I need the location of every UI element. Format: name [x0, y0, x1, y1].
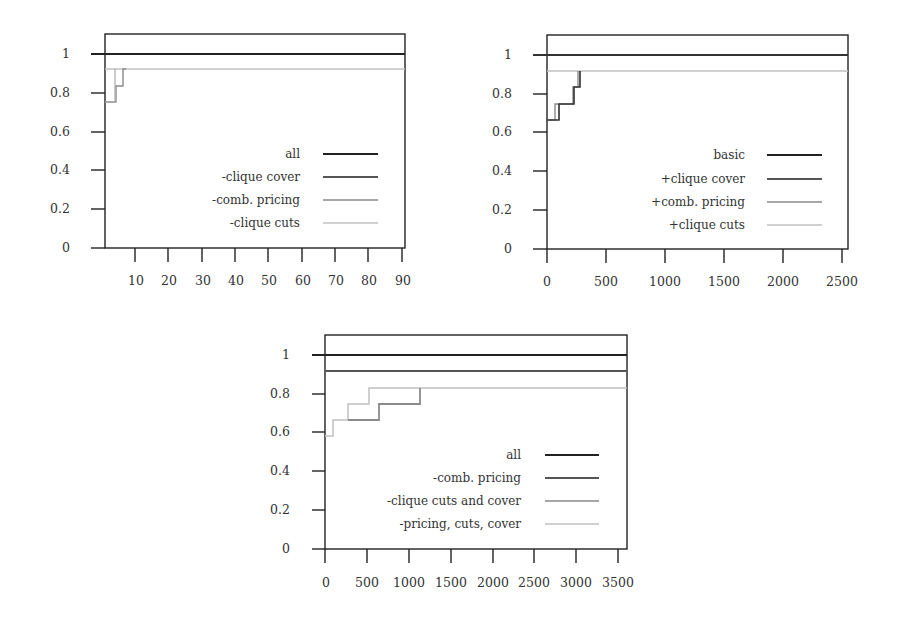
x-tick-label: 0: [322, 575, 330, 590]
y-tick-label: 0.2: [270, 502, 290, 517]
y-axis-labels: 0 0.2 0.4 0.6 0.8 1: [270, 347, 290, 556]
y-tick-label: 0.6: [50, 124, 70, 139]
legend-label: +clique cuts: [669, 218, 745, 232]
legend-label: -pricing, cuts, cover: [399, 517, 521, 531]
legend: basic +clique cover +comb. pricing +cliq…: [651, 148, 822, 232]
y-tick-label: 0.8: [270, 386, 290, 401]
y-tick-label: 0: [504, 241, 512, 256]
x-tick-label: 60: [295, 273, 311, 288]
y-tick-label: 0.6: [492, 124, 512, 139]
y-axis-ticks: [533, 55, 547, 249]
y-tick-label: 0.2: [492, 202, 512, 217]
y-tick-label: 0.4: [50, 162, 70, 177]
x-tick-label: 3000: [560, 575, 592, 590]
x-axis-ticks: [325, 549, 618, 563]
x-axis-ticks: [135, 248, 402, 262]
series-clique-cover: [547, 71, 580, 120]
legend-label: basic: [713, 148, 745, 162]
x-tick-label: 1000: [393, 575, 425, 590]
x-tick-label: 30: [195, 273, 211, 288]
x-tick-label: 2000: [767, 274, 799, 289]
series-clique-cuts-step: [105, 69, 115, 102]
legend-label: -clique cover: [222, 170, 301, 184]
y-tick-label: 0: [282, 541, 290, 556]
x-tick-label: 2500: [826, 274, 858, 289]
series-lines: [312, 355, 627, 436]
x-tick-label: 40: [228, 273, 244, 288]
x-tick-label: 3500: [602, 575, 634, 590]
x-axis-ticks: [547, 249, 842, 263]
y-tick-label: 0.4: [492, 163, 512, 178]
legend-label: all: [506, 448, 521, 462]
plot-frame: [547, 35, 848, 249]
x-tick-label: 50: [261, 273, 277, 288]
x-tick-label: 500: [594, 274, 618, 289]
y-axis-ticks: [91, 54, 105, 248]
x-axis-labels: 0 500 1000 1500 2000 2500 3000 3500: [322, 575, 634, 590]
x-tick-label: 70: [328, 273, 344, 288]
x-tick-label: 2000: [477, 575, 509, 590]
y-tick-label: 0.6: [270, 424, 290, 439]
y-tick-label: 0.8: [492, 86, 512, 101]
x-tick-label: 2500: [518, 575, 550, 590]
y-tick-label: 0.2: [50, 201, 70, 216]
x-tick-label: 20: [161, 273, 177, 288]
y-tick-label: 0.8: [50, 85, 70, 100]
series-lines: [91, 54, 405, 102]
x-tick-label: 500: [355, 575, 379, 590]
legend-label: -comb. pricing: [212, 193, 300, 207]
series-basic: [547, 71, 580, 120]
legend-label: +clique cover: [661, 172, 746, 186]
y-tick-label: 1: [282, 347, 290, 362]
y-tick-label: 1: [62, 46, 70, 61]
x-tick-label: 0: [543, 274, 551, 289]
legend-label: +comb. pricing: [651, 195, 745, 209]
legend-label: -comb. pricing: [433, 471, 521, 485]
y-tick-label: 1: [504, 47, 512, 62]
series-pricing-cuts-cover: [325, 388, 627, 436]
x-tick-label: 1500: [435, 575, 467, 590]
y-axis-labels: 0 0.2 0.4 0.6 0.8 1: [492, 47, 512, 256]
legend: all -clique cover -comb. pricing -clique…: [212, 147, 378, 230]
x-axis-labels: 0 500 1000 1500 2000 2500: [543, 274, 858, 289]
chart-panel-3: 0 0.2 0.4 0.6 0.8 1 0 500 1000 1500 2000…: [270, 335, 634, 590]
x-tick-label: 80: [361, 273, 377, 288]
y-axis-labels: 0 0.2 0.4 0.6 0.8 1: [50, 46, 70, 255]
y-tick-label: 0: [62, 240, 70, 255]
chart-panel-2: 0 0.2 0.4 0.6 0.8 1 0 500 1000 1500 2000…: [492, 35, 858, 289]
series-lines: [533, 55, 848, 120]
x-tick-label: 10: [128, 273, 144, 288]
y-axis-ticks: [312, 355, 325, 549]
x-tick-label: 1500: [708, 274, 740, 289]
legend-label: all: [285, 147, 300, 161]
chart-panel-1: 0 0.2 0.4 0.6 0.8 1 10 20 30 40 50 60 70: [50, 34, 411, 288]
x-tick-label: 1000: [649, 274, 681, 289]
x-axis-labels: 10 20 30 40 50 60 70 80 90: [128, 273, 411, 288]
figure: 0 0.2 0.4 0.6 0.8 1 10 20 30 40 50 60 70: [0, 0, 901, 623]
x-tick-label: 90: [395, 273, 411, 288]
legend-label: -clique cuts: [230, 216, 300, 230]
y-tick-label: 0.4: [270, 463, 290, 478]
legend-label: -clique cuts and cover: [387, 494, 521, 508]
legend: all -comb. pricing -clique cuts and cove…: [387, 448, 599, 531]
